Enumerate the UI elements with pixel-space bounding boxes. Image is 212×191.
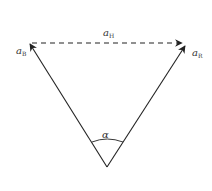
top-vector-label: aH — [103, 27, 114, 39]
angle-label: α — [102, 129, 109, 140]
right-vector-arrow — [107, 46, 185, 167]
right-vector-label: aR — [192, 47, 203, 59]
left-vector-arrow — [30, 44, 107, 167]
vector-triangle-diagram: aB aH aR α — [0, 0, 212, 191]
left-vector-label: aB — [16, 45, 27, 57]
